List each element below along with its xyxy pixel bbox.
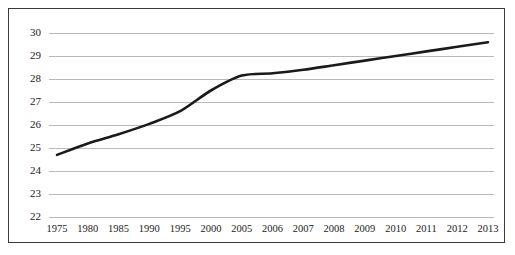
chart-frame: 222324252627282930 197519801985199019952…: [8, 8, 505, 243]
x-axis-tick-label: 1975: [40, 223, 74, 234]
y-axis-tick-label: 26: [15, 119, 41, 130]
y-axis-tick-label: 29: [15, 50, 41, 61]
x-axis-tick-label: 2013: [471, 223, 505, 234]
y-axis-tick-label: 23: [15, 188, 41, 199]
x-axis-tick-label: 1995: [163, 223, 197, 234]
x-axis-tick-label: 2011: [409, 223, 443, 234]
data-series-group: [57, 42, 488, 155]
y-axis-tick-label: 25: [15, 142, 41, 153]
x-axis-tick-label: 2009: [348, 223, 382, 234]
x-axis-tick-label: 1990: [132, 223, 166, 234]
y-axis-tick-label: 27: [15, 96, 41, 107]
x-axis-tick-label: 2006: [256, 223, 290, 234]
x-axis-tick-label: 2007: [286, 223, 320, 234]
data-line: [57, 42, 488, 155]
y-axis-tick-label: 30: [15, 27, 41, 38]
x-axis-tick-label: 1980: [71, 223, 105, 234]
x-axis-tick-label: 2010: [379, 223, 413, 234]
y-axis-tick-label: 22: [15, 211, 41, 222]
x-axis-tick-label: 2008: [317, 223, 351, 234]
x-axis-tick-label: 1985: [102, 223, 136, 234]
y-axis-tick-label: 24: [15, 165, 41, 176]
gridlines: [49, 34, 494, 218]
plot-area: [9, 9, 504, 242]
x-axis-tick-label: 2005: [225, 223, 259, 234]
chart-figure: 222324252627282930 197519801985199019952…: [0, 0, 515, 255]
y-axis-tick-label: 28: [15, 73, 41, 84]
x-axis-tick-label: 2012: [440, 223, 474, 234]
x-axis-tick-label: 2000: [194, 223, 228, 234]
